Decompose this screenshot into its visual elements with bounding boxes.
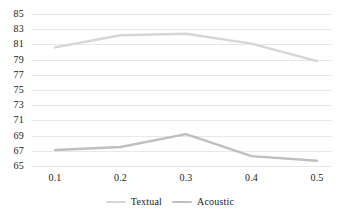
x-tick-label: 0.3 [179, 172, 192, 184]
x-tick-label: 0.5 [310, 172, 323, 184]
series-line-acoustic [55, 134, 317, 161]
y-tick-label: 65 [14, 161, 24, 171]
x-tick-label: 0.1 [48, 172, 61, 184]
x-tick-label: 0.4 [245, 172, 258, 184]
y-tick-label: 75 [14, 85, 24, 95]
series-container [32, 14, 332, 166]
x-tick-label: 0.2 [114, 172, 127, 184]
line-chart: 8583817977757371696765 0.10.20.30.40.5 T… [0, 0, 340, 217]
y-tick-label: 71 [14, 115, 24, 125]
legend-line-icon [172, 201, 192, 203]
chart-legend: TextualAcoustic [0, 193, 340, 211]
legend-label: Acoustic [197, 196, 234, 208]
legend-item-acoustic[interactable]: Acoustic [172, 196, 234, 208]
y-tick-label: 81 [14, 39, 24, 49]
plot-area [32, 14, 332, 166]
legend-label: Textual [131, 196, 162, 208]
series-line-textual [55, 34, 317, 61]
gridline [32, 166, 332, 167]
y-tick-label: 73 [14, 100, 24, 110]
y-tick-label: 83 [14, 24, 24, 34]
y-tick-label: 79 [14, 55, 24, 65]
x-axis: 0.10.20.30.40.5 [32, 172, 332, 186]
y-tick-label: 85 [14, 9, 24, 19]
y-tick-label: 67 [14, 146, 24, 156]
y-tick-label: 69 [14, 131, 24, 141]
legend-line-icon [106, 201, 126, 203]
y-axis: 8583817977757371696765 [0, 14, 28, 166]
y-tick-label: 77 [14, 70, 24, 80]
legend-item-textual[interactable]: Textual [106, 196, 162, 208]
